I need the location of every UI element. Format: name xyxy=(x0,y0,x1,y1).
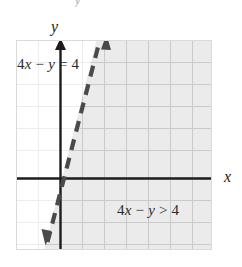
ineq-minus: − xyxy=(132,202,149,218)
inequality-label: 4x − y > 4 xyxy=(117,202,179,219)
ineq-var-x: x xyxy=(125,202,132,218)
ineq-coefficient: 4 xyxy=(117,202,125,218)
ineq-var-y: y xyxy=(148,202,155,218)
line-equation-label: 4x − y = 4 xyxy=(17,56,79,73)
eq-coefficient: 4 xyxy=(17,56,25,72)
inequality-graph-figure: y y x xyxy=(0,0,242,267)
eq-minus: − xyxy=(32,56,49,72)
eq-var-x: x xyxy=(25,56,32,72)
y-axis-label: y xyxy=(51,18,58,36)
ineq-constant: 4 xyxy=(172,202,180,218)
ineq-relation: > xyxy=(155,202,172,218)
eq-var-y: y xyxy=(48,56,55,72)
cropped-glyph-fragment: y xyxy=(74,0,90,7)
eq-relation: = xyxy=(55,56,72,72)
x-axis-label: x xyxy=(224,168,231,186)
eq-constant: 4 xyxy=(72,56,80,72)
